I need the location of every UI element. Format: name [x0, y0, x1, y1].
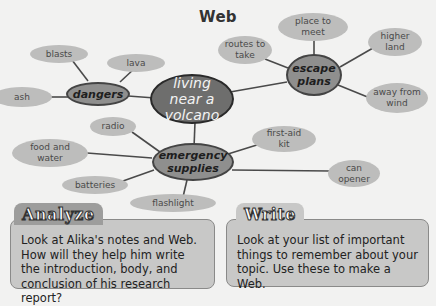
analyze-heading: Analyze	[14, 203, 103, 225]
leaf-higher-land: higher land	[368, 28, 422, 56]
analyze-box: Look at Alika's notes and Web. How will …	[10, 219, 215, 289]
write-box: Look at your list of important things to…	[226, 219, 429, 287]
branch-emergency-supplies: emergency supplies	[152, 143, 234, 181]
leaf-batteries: batteries	[62, 176, 128, 194]
analyze-text: Look at Alika's notes and Web. How will …	[21, 233, 197, 305]
center-node: living near a volcano	[150, 74, 234, 124]
leaf-place-to-meet: place to meet	[278, 13, 348, 41]
branch-dangers: dangers	[66, 82, 130, 106]
leaf-away-from-wind: away from wind	[366, 83, 428, 113]
leaf-routes-to-take: routes to take	[218, 36, 272, 64]
leaf-blasts: blasts	[30, 45, 88, 63]
leaf-food-and-water: food and water	[12, 139, 88, 167]
leaf-flashlight: flashlight	[130, 194, 216, 212]
write-text: Look at your list of important things to…	[237, 233, 418, 291]
branch-escape-plans: escape plans	[286, 54, 342, 96]
write-heading: Write	[236, 203, 304, 225]
leaf-radio: radio	[90, 117, 136, 136]
leaf-can-opener: can opener	[328, 160, 380, 187]
leaf-first-aid-kit: first-aid kit	[252, 126, 316, 152]
leaf-lava: lava	[107, 54, 165, 72]
